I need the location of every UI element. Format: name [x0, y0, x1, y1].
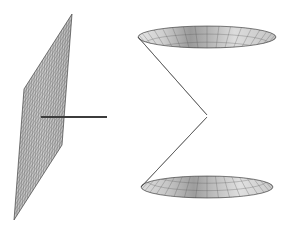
- figure-canvas: [0, 0, 292, 229]
- plane-and-double-cone-figure: [0, 0, 292, 229]
